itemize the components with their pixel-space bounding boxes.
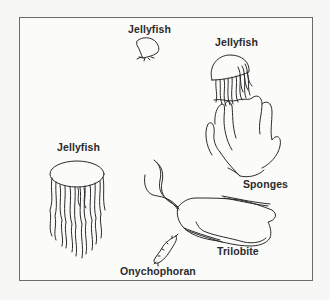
onychophoran-icon <box>154 234 178 266</box>
label-sponges: Sponges <box>243 178 288 190</box>
jellyfish-large-icon <box>211 55 252 106</box>
jellyfish-small-icon <box>137 38 159 61</box>
illustration <box>0 0 330 300</box>
label-jellyfish-left: Jellyfish <box>57 141 100 153</box>
jellyfish-left-icon <box>50 161 105 258</box>
label-onychophoran: Onychophoran <box>120 265 196 277</box>
sponges-icon <box>206 96 280 177</box>
label-trilobite: Trilobite <box>217 245 259 257</box>
label-jellyfish-right: Jellyfish <box>215 36 258 48</box>
trilobite-icon <box>144 160 275 246</box>
label-jellyfish-top: Jellyfish <box>128 23 171 35</box>
